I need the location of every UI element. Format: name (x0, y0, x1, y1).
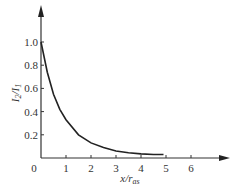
x-tick-label: 4 (138, 162, 144, 174)
y-tick-label: 0.2 (24, 129, 38, 141)
y-tick-label: 0.8 (24, 59, 38, 71)
y-tick-label: 0.4 (24, 106, 38, 118)
x-tick-label: 1 (63, 162, 69, 174)
y-axis-arrow-icon (38, 5, 44, 17)
x-tick-label: 2 (88, 162, 94, 174)
x-tick-label: 3 (113, 162, 119, 174)
data-line (41, 42, 164, 155)
y-tick-label: 1.0 (24, 36, 38, 48)
chart: 123456 0.20.40.60.81.0 0 x/ras I2/I1 (0, 0, 235, 190)
x-axis-label: x/ras (119, 172, 139, 186)
origin-label: 0 (31, 162, 37, 174)
x-tick-label: 5 (163, 162, 169, 174)
y-tick-label: 0.6 (24, 82, 38, 94)
x-axis-arrow-icon (219, 155, 230, 161)
x-axis (41, 155, 230, 161)
x-tick-label: 6 (188, 162, 194, 174)
y-axis-label: I2/I1 (9, 84, 23, 103)
